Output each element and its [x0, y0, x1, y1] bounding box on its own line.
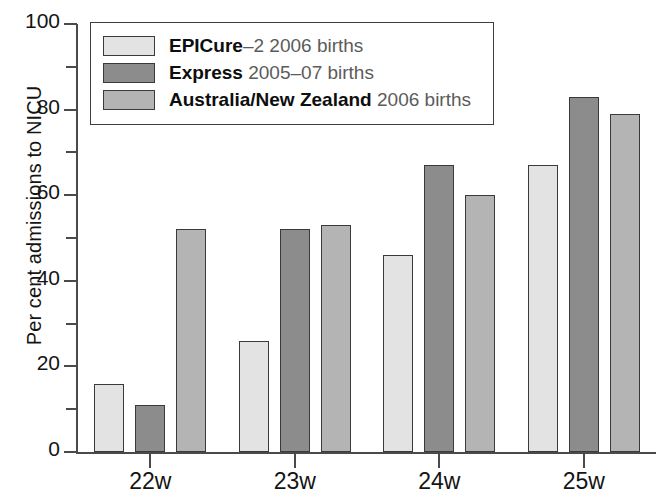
bar-22w-series-3	[176, 229, 206, 452]
bar-23w-series-2	[280, 229, 310, 452]
y-tick-label-40: 40	[4, 266, 60, 290]
legend-label-express: Express 2005–07 births	[169, 62, 374, 84]
legend-label-rest: 2006 births	[372, 89, 471, 110]
x-tick-23w	[294, 454, 296, 468]
y-tick-label-100: 100	[4, 9, 60, 33]
legend-swatch-australia-new-zealand	[103, 90, 155, 110]
legend-label-rest: 2005–07 births	[243, 62, 374, 83]
y-tick-label-20: 20	[4, 351, 60, 375]
legend-item-epicure-2: EPICure–2 2006 births	[103, 33, 481, 59]
legend-swatch-epicure-2	[103, 36, 155, 56]
x-tick-25w	[583, 454, 585, 468]
x-tick-22w	[149, 454, 151, 468]
y-tick-label-0: 0	[4, 437, 60, 461]
y-tick-100	[64, 23, 77, 25]
y-tick-80	[64, 109, 77, 111]
chart-legend: EPICure–2 2006 births Express 2005–07 bi…	[90, 22, 494, 125]
y-tick-label-60: 60	[4, 180, 60, 204]
bar-23w-series-1	[239, 341, 269, 452]
y-tick-minor-30	[66, 323, 77, 325]
x-tick-label-24w: 24w	[394, 468, 484, 493]
bar-25w-series-2	[569, 97, 599, 452]
legend-label-rest: –2 2006 births	[243, 35, 363, 56]
x-tick-label-23w: 23w	[250, 468, 340, 493]
legend-label-australia-new-zealand: Australia/New Zealand 2006 births	[169, 89, 471, 111]
y-tick-20	[64, 365, 77, 367]
legend-item-australia-new-zealand: Australia/New Zealand 2006 births	[103, 87, 481, 113]
legend-label-bold: EPICure	[169, 35, 243, 56]
bar-24w-series-1	[383, 255, 413, 452]
y-tick-40	[64, 280, 77, 282]
y-tick-label-80: 80	[4, 95, 60, 119]
legend-label-epicure-2: EPICure–2 2006 births	[169, 35, 363, 57]
legend-item-express: Express 2005–07 births	[103, 60, 481, 86]
x-axis-line	[76, 452, 656, 454]
legend-label-bold: Australia/New Zealand	[169, 89, 372, 110]
x-tick-label-25w: 25w	[539, 468, 629, 493]
bar-24w-series-2	[424, 165, 454, 452]
bar-24w-series-3	[465, 195, 495, 452]
y-tick-minor-70	[66, 151, 77, 153]
bar-22w-series-2	[135, 405, 165, 452]
bar-25w-series-1	[528, 165, 558, 452]
bar-22w-series-1	[94, 384, 124, 452]
y-tick-minor-50	[66, 237, 77, 239]
bar-group-25w	[512, 24, 656, 452]
legend-swatch-express	[103, 63, 155, 83]
y-tick-0	[64, 451, 77, 453]
x-tick-label-22w: 22w	[105, 468, 195, 493]
y-tick-minor-10	[66, 408, 77, 410]
y-tick-minor-90	[66, 66, 77, 68]
legend-label-bold: Express	[169, 62, 243, 83]
y-tick-60	[64, 194, 77, 196]
bar-23w-series-3	[321, 225, 351, 452]
x-tick-24w	[438, 454, 440, 468]
bar-25w-series-3	[610, 114, 640, 452]
